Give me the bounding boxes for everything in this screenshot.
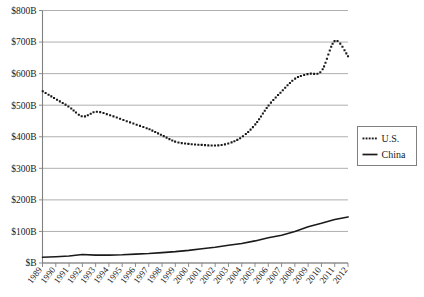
us-series-dot: [81, 115, 83, 117]
us-series-dot: [84, 115, 86, 117]
us-series-dot: [231, 141, 233, 143]
us-series-dot: [116, 117, 118, 119]
us-series-dot: [277, 94, 279, 96]
us-series-dot: [75, 112, 77, 114]
us-series-dot: [242, 135, 244, 137]
us-series-dot: [194, 143, 196, 145]
us-series-dot: [187, 143, 189, 145]
us-series-dot: [207, 144, 209, 146]
us-series-dot: [56, 99, 58, 101]
us-series-dot: [171, 139, 173, 141]
us-series-dot: [264, 110, 266, 112]
us-series-dot: [191, 143, 193, 145]
y-axis-tick-label: $500B: [11, 101, 36, 111]
us-series-dot: [254, 123, 256, 125]
us-series-dot: [313, 73, 315, 75]
legend-marker-dotted: [369, 138, 371, 140]
us-series-dot: [109, 114, 111, 116]
us-series-dot: [322, 68, 324, 70]
us-series-dot: [45, 92, 47, 94]
us-series-dot: [214, 145, 216, 147]
us-series-dot: [112, 115, 114, 117]
us-series-dot: [319, 71, 321, 73]
y-axis-tick-label: $300B: [11, 164, 36, 174]
us-series-dot: [347, 55, 349, 57]
gridlines: [43, 11, 349, 264]
y-axis-tick-label: $800B: [11, 6, 36, 16]
us-series-dot: [148, 128, 150, 130]
us-series-dot: [99, 111, 101, 113]
us-series-dot: [204, 144, 206, 146]
us-series-dot: [217, 144, 219, 146]
us-series-dot: [284, 87, 286, 89]
us-series-dot: [65, 104, 67, 106]
us-series-dot: [252, 126, 254, 128]
us-series-dot: [62, 102, 64, 104]
us-series-dot: [333, 40, 335, 42]
us-series-dot: [78, 114, 80, 116]
y-axis-tick-labels: $B$100B$200B$300B$400B$500B$600B$700B$80…: [11, 6, 42, 269]
x-axis-tick-labels: 1989199019911992199319941995199619971998…: [25, 265, 349, 286]
us-series-dot: [224, 143, 226, 145]
us-series-dot: [329, 49, 331, 51]
us-series-dot: [272, 99, 274, 101]
us-series-dot: [102, 112, 104, 114]
us-series-dot: [294, 78, 296, 80]
us-series-dot: [282, 89, 284, 91]
series-china: [43, 217, 349, 257]
us-series-dot: [126, 120, 128, 122]
y-axis-tick-label: $600B: [11, 69, 36, 79]
legend-item-label: China: [382, 149, 406, 160]
us-series-dot: [48, 94, 50, 96]
us-series-dot: [341, 46, 343, 48]
us-series-dot: [345, 52, 347, 54]
us-series-dot: [310, 73, 312, 75]
legend-marker-dotted: [363, 138, 365, 140]
us-series-dot: [260, 115, 262, 117]
us-series-dot: [258, 118, 260, 120]
us-series-dot: [106, 113, 108, 115]
us-series-dot: [227, 142, 229, 144]
us-series-dot: [142, 126, 144, 128]
us-series-dot: [323, 65, 325, 67]
us-series-dot: [289, 82, 291, 84]
us-series-dot: [233, 140, 235, 142]
us-series-dot: [87, 114, 89, 116]
us-series-dot: [96, 111, 98, 113]
y-axis-tick-label: $700B: [11, 37, 36, 47]
line-chart: $B$100B$200B$300B$400B$500B$600B$700B$80…: [0, 0, 424, 297]
us-series-dot: [256, 121, 258, 123]
us-series-dot: [160, 134, 162, 136]
us-series-dot: [42, 90, 44, 92]
us-series-dot: [67, 105, 69, 107]
y-axis-tick-label: $100B: [11, 227, 36, 237]
us-series-dot: [132, 123, 134, 125]
us-series-dot: [300, 75, 302, 77]
us-series-dot: [336, 40, 338, 42]
us-series-dot: [184, 143, 186, 145]
us-series-dot: [70, 107, 72, 109]
us-series-dot: [211, 145, 213, 147]
legend-marker-dotted: [366, 138, 368, 140]
us-series-dot: [151, 130, 153, 132]
us-series-dot: [119, 118, 121, 120]
x-axis-tick-label: 2012: [331, 265, 350, 285]
us-series-dot: [343, 49, 345, 51]
us-series-dot: [303, 74, 305, 76]
us-series-dot: [327, 54, 329, 56]
legend-marker-dotted: [375, 138, 377, 140]
us-series-dot: [221, 144, 223, 146]
us-series-dot: [73, 109, 75, 111]
us-series-dot: [136, 124, 138, 126]
us-series-dot: [174, 141, 176, 143]
us-series-dot: [163, 135, 165, 137]
us-series-dot: [339, 43, 341, 45]
us-series-dot: [122, 119, 124, 121]
us-series-dot: [316, 73, 318, 75]
us-series-dot: [306, 73, 308, 75]
us-series-dot: [247, 131, 249, 133]
us-series-dot: [262, 113, 264, 115]
us-series-dot: [90, 113, 92, 115]
us-series-dot: [157, 132, 159, 134]
us-series-dot: [330, 46, 332, 48]
